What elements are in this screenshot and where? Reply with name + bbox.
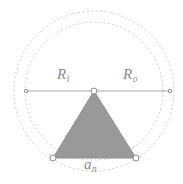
side-length-symbol: a <box>84 156 92 172</box>
diameter-left-endpoint-marker <box>24 89 27 92</box>
equilateral-triangle <box>53 91 136 158</box>
circumradius-symbol: R <box>123 66 132 82</box>
inradius-subscript: i <box>66 74 69 84</box>
apex-vertex-marker <box>91 88 97 94</box>
geometry-figure: Ri Ro an <box>0 0 183 184</box>
inradius-symbol: R <box>57 66 66 82</box>
inradius-label: Ri <box>57 67 69 84</box>
circumradius-label: Ro <box>123 67 137 84</box>
side-length-subscript: n <box>92 164 97 174</box>
diameter-right-endpoint-marker <box>168 89 171 92</box>
bottom-right-vertex-marker <box>133 155 139 161</box>
circumradius-subscript: o <box>132 74 137 84</box>
side-length-label: an <box>84 157 97 174</box>
bottom-left-vertex-marker <box>50 155 56 161</box>
